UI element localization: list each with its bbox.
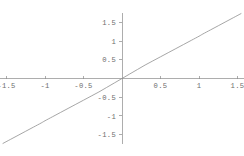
y-tick-label: -1	[107, 113, 116, 121]
x-tick-label: 1	[197, 82, 202, 90]
y-tick-label: -1.5	[98, 131, 116, 139]
x-tick-label: 0.5	[154, 82, 168, 90]
x-tick-label: -1.5	[0, 82, 16, 90]
y-tick-label: 1.5	[102, 19, 116, 27]
x-tick-label: -1	[40, 82, 49, 90]
y-tick-label: 0.5	[102, 56, 116, 64]
y-tick-label: -0.5	[98, 94, 116, 102]
plot-canvas: -1.5-1-0.50.511.5-1.5-1-0.50.511.5	[0, 0, 244, 156]
y-tick-label: 1	[111, 38, 116, 46]
plot-figure: -1.5-1-0.50.511.5-1.5-1-0.50.511.5	[0, 0, 244, 156]
x-tick-label: 1.5	[231, 82, 244, 90]
x-tick-label: -0.5	[74, 82, 92, 90]
